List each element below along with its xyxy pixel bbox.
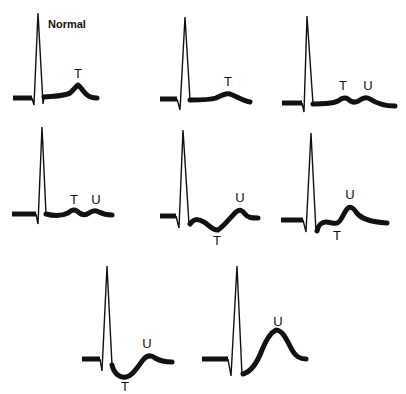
ecg-panel-7: U T: [82, 266, 172, 394]
u-wave-label: U: [273, 314, 282, 329]
ecg-panel-1-normal: Normal T: [13, 13, 97, 105]
u-wave-label: U: [345, 187, 354, 202]
u-wave-label: U: [363, 78, 372, 93]
t-wave-label: T: [70, 192, 78, 207]
ecg-panel-3: T U: [282, 16, 395, 112]
u-wave-label: U: [235, 190, 244, 205]
t-wave-label: T: [224, 74, 232, 89]
ecg-waveform-diagram: Normal T T T U T U U T U T: [0, 0, 406, 394]
ecg-panel-2: T: [160, 17, 250, 110]
t-wave-label: T: [333, 228, 341, 243]
ecg-panel-8: U: [202, 266, 306, 376]
u-wave-label: U: [142, 336, 151, 351]
t-wave-label: T: [339, 78, 347, 93]
t-wave-label: T: [121, 379, 129, 394]
normal-label: Normal: [48, 18, 86, 30]
u-wave-label: U: [91, 192, 100, 207]
ecg-panel-5: U T: [160, 130, 258, 248]
t-wave-label: T: [213, 233, 221, 248]
ecg-panel-4: T U: [12, 127, 112, 224]
t-wave-label: T: [74, 66, 82, 81]
ecg-panel-6: U T: [281, 133, 387, 243]
